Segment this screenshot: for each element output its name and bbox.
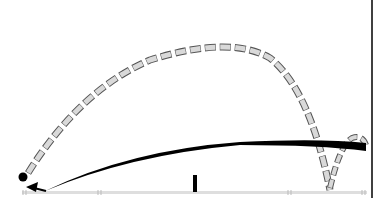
trajectory-diagram: [0, 0, 391, 211]
launch-arrow-icon: [26, 182, 38, 192]
short-post: [193, 175, 197, 192]
dashed-high-trajectory-outline: [28, 47, 330, 190]
ball: [19, 173, 28, 182]
